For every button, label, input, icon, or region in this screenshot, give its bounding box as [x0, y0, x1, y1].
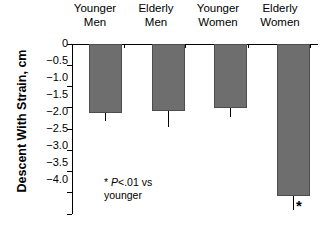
y-tick-label-4: −2.0	[28, 106, 68, 117]
bar-younger-men	[89, 44, 122, 113]
bar-chart-figure: Descent With Strain, cm 0 −0.5 −1.0 −1.5…	[0, 0, 333, 240]
y-tick-label-7: −3.5	[28, 157, 68, 168]
error-bar-younger-women	[230, 108, 231, 117]
y-tick-label-5: −2.5	[28, 123, 68, 134]
y-tick-label-8: −4.0	[28, 174, 68, 185]
bar-younger-women	[214, 44, 247, 108]
y-tick-mark-4	[67, 129, 72, 130]
bar-elderly-women	[277, 44, 310, 196]
y-tick-label-0: 0	[28, 38, 68, 49]
y-tick-label-6: −3.0	[28, 140, 68, 151]
x-category-label-elderly-women: Elderly Women	[243, 2, 317, 29]
y-axis-line	[72, 44, 73, 214]
note-prefix: *	[104, 176, 111, 188]
y-tick-mark-3	[67, 107, 72, 108]
error-bar-younger-men	[105, 113, 106, 121]
significance-note: * P<.01 vs younger	[104, 176, 152, 201]
x-tick-mark-1	[124, 44, 125, 48]
y-axis-title: Descent With Strain, cm	[15, 41, 29, 201]
y-tick-label-3: −1.5	[28, 89, 68, 100]
y-tick-mark-8	[67, 214, 72, 215]
y-tick-mark-2	[67, 86, 72, 87]
error-bar-elderly-women	[293, 196, 294, 210]
y-tick-label-1: −0.5	[28, 55, 68, 66]
x-tick-mark-2	[185, 44, 186, 48]
y-tick-mark-1	[67, 65, 72, 66]
note-italic-p: P	[111, 176, 118, 188]
error-bar-elderly-men	[168, 111, 169, 127]
y-tick-label-2: −1.0	[28, 72, 68, 83]
significance-star: *	[296, 201, 302, 211]
y-tick-mark-7	[67, 192, 72, 193]
y-tick-mark-5	[67, 150, 72, 151]
x-tick-mark-3	[248, 44, 249, 48]
x-tick-mark-4	[310, 44, 311, 48]
y-tick-mark-6	[67, 171, 72, 172]
x-tick-mark-0	[72, 44, 73, 48]
bar-elderly-men	[152, 44, 185, 111]
